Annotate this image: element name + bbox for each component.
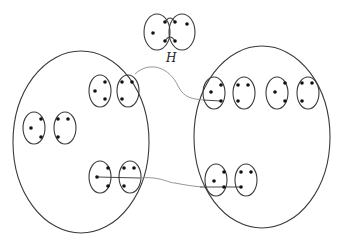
vertex-dot xyxy=(151,31,155,35)
left-pair-2 xyxy=(23,112,76,144)
gadget-left-ellipse xyxy=(144,14,170,50)
diagram-canvas: H xyxy=(0,0,346,241)
label-h: H xyxy=(165,51,177,65)
connector-bottom xyxy=(140,178,202,187)
right-pair-2 xyxy=(266,77,319,109)
right-pair-1 xyxy=(203,77,255,109)
vertex-dot xyxy=(173,39,177,43)
vertex-dot xyxy=(185,22,189,26)
left-pair-3 xyxy=(89,161,141,193)
connector-top xyxy=(135,67,204,100)
vertex-dot xyxy=(163,39,167,43)
vertex-dot xyxy=(163,20,167,24)
left-pair-1 xyxy=(89,75,139,107)
right-pair-3 xyxy=(200,164,257,196)
vertex-dot xyxy=(173,20,177,24)
right-set-ellipse xyxy=(194,46,330,228)
gadget-h: H xyxy=(144,14,195,65)
left-set-ellipse xyxy=(13,51,149,233)
